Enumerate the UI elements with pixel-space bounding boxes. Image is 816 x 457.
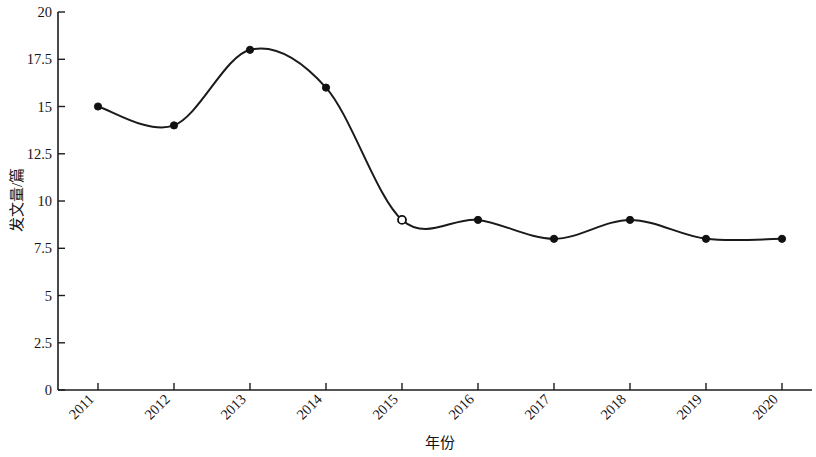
y-tick-label-7-5: 7.5	[34, 240, 52, 256]
data-point-2018	[626, 216, 633, 223]
y-tick-label-12-5: 12.5	[27, 146, 52, 162]
data-point-2019	[702, 235, 709, 242]
data-point-2014	[322, 84, 329, 91]
data-point-2012	[170, 122, 177, 129]
x-axis-title: 年份	[425, 435, 455, 451]
data-point-2020	[778, 235, 785, 242]
data-point-2013	[246, 46, 253, 53]
chart-svg: 0 2.5 5 7.5 10 12.5 15 17.5 20 2011 20	[0, 0, 816, 457]
y-tick-label-17-5: 17.5	[27, 51, 52, 67]
line-chart-container: 0 2.5 5 7.5 10 12.5 15 17.5 20 2011 20	[0, 0, 816, 457]
data-point-2017	[550, 235, 557, 242]
y-axis-title: 发文量/篇	[8, 168, 25, 232]
data-point-2016	[474, 216, 481, 223]
y-tick-label-10: 10	[38, 193, 53, 209]
data-point-2011	[94, 103, 101, 110]
y-tick-label-2-5: 2.5	[34, 335, 52, 351]
data-point-2015	[398, 216, 406, 224]
chart-background	[0, 0, 816, 457]
y-tick-label-15: 15	[38, 99, 53, 115]
y-tick-label-0: 0	[45, 382, 52, 398]
y-tick-label-20: 20	[38, 4, 53, 20]
y-tick-label-5: 5	[45, 288, 52, 304]
